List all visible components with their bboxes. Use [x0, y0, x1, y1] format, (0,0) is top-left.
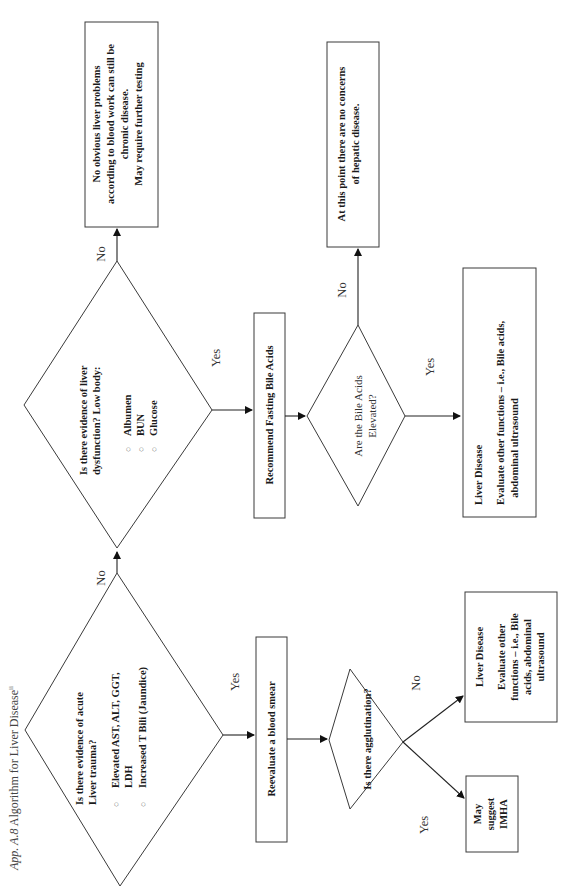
agglutination-text: Is there agglutination?: [362, 688, 373, 789]
decision-liver-dysfunction: [24, 261, 212, 548]
figure-caption: App. A.8 Algorithm for Liver Diseaseii: [7, 686, 21, 871]
svg-text:abdominal ultrasound: abdominal ultrasound: [509, 398, 520, 498]
svg-text:functions – i.e., Bile: functions – i.e., Bile: [509, 613, 520, 701]
svg-text:BUN: BUN: [135, 413, 146, 436]
svg-text:suggest: suggest: [485, 797, 496, 830]
svg-text:Evaluate other: Evaluate other: [496, 624, 507, 691]
svg-text:Are the Bile Acids: Are the Bile Acids: [352, 375, 364, 457]
label-bile-no: No: [335, 282, 349, 297]
recommend-bile-text: Recommend Fasting Bile Acids: [264, 345, 275, 484]
svg-text:Elevated?: Elevated?: [366, 394, 378, 437]
svg-text:Glucose: Glucose: [148, 400, 159, 436]
arrow-agglut-no: [403, 696, 463, 742]
label-dysfunction-yes: Yes: [209, 349, 223, 367]
svg-text:Evaluate other functions – i.e: Evaluate other functions – i.e., Bile ac…: [495, 320, 506, 505]
label-dysfunction-no: No: [94, 246, 108, 261]
svg-text:acids, abdominal: acids, abdominal: [522, 619, 533, 695]
bullet-icon: ○: [111, 802, 121, 807]
svg-text:Liver Disease: Liver Disease: [473, 444, 484, 505]
flowchart: App. A.8 Algorithm for Liver Diseaseii N…: [0, 0, 564, 892]
svg-text:May require further testing: May require further testing: [133, 62, 144, 186]
svg-text:Liver Disease: Liver Disease: [474, 627, 485, 688]
svg-text:of hepatic disease.: of hepatic disease.: [350, 103, 361, 184]
svg-text:At this point there are no con: At this point there are no concerns: [336, 67, 347, 222]
reevaluate-smear-text: Reevaluate a blood smear: [266, 681, 277, 797]
bullet-icon: ○: [149, 447, 159, 452]
svg-text:Liver trauma?: Liver trauma?: [87, 740, 98, 805]
svg-text:No obvious liver problems: No obvious liver problems: [91, 65, 102, 182]
svg-text:according to blood work can st: according to blood work can still be: [105, 44, 116, 204]
decision-acute-trauma: [25, 573, 223, 886]
label-agglut-yes: Yes: [417, 816, 431, 834]
bullet-icon: ○: [136, 447, 146, 452]
svg-text:May: May: [472, 803, 483, 824]
svg-text:Is there evidence of liver: Is there evidence of liver: [78, 365, 89, 475]
label-acute-no: No: [94, 570, 108, 585]
arrow-agglut-yes: [403, 742, 464, 798]
svg-text:Elevated AST, ALT, GGT,: Elevated AST, ALT, GGT,: [110, 672, 121, 788]
svg-text:IMHA: IMHA: [498, 799, 509, 829]
label-agglut-no: No: [409, 675, 423, 690]
bullet-icon: ○: [138, 802, 148, 807]
svg-text:Albumen: Albumen: [122, 394, 133, 436]
svg-text:LDH: LDH: [123, 765, 134, 788]
svg-text:dysfunction? Low body:: dysfunction? Low body:: [91, 366, 102, 475]
svg-text:Increased T Bili (Jaundice): Increased T Bili (Jaundice): [137, 666, 149, 788]
label-bile-yes: Yes: [423, 358, 437, 376]
svg-text:ultrasound: ultrasound: [535, 632, 546, 681]
svg-text:chronic disease.: chronic disease.: [119, 88, 130, 159]
label-acute-yes: Yes: [228, 673, 242, 691]
svg-text:Is there evidence of acute: Is there evidence of acute: [74, 692, 85, 805]
bullet-icon: ○: [123, 447, 133, 452]
